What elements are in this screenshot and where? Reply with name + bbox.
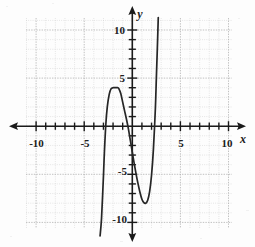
axis-y bbox=[128, 6, 136, 242]
y-tick-label-neg10: -10 bbox=[112, 213, 127, 225]
x-tick-label-5: 5 bbox=[178, 137, 184, 149]
x-axis-name: x bbox=[239, 132, 246, 146]
cartesian-plot: -10 -5 5 10 10 5 -5 -10 x y bbox=[0, 0, 255, 247]
y-axis-name: y bbox=[135, 7, 143, 21]
x-tick-label-neg10: -10 bbox=[29, 137, 44, 149]
y-tick-label-5: 5 bbox=[120, 72, 126, 84]
y-axis-tick-labels: 10 5 -5 -10 bbox=[112, 24, 127, 225]
y-tick-label-neg5: -5 bbox=[118, 165, 128, 177]
graph-figure: -10 -5 5 10 10 5 -5 -10 x y bbox=[0, 0, 255, 247]
x-tick-label-10: 10 bbox=[222, 137, 234, 149]
y-tick-label-10: 10 bbox=[114, 24, 126, 36]
x-tick-label-neg5: -5 bbox=[80, 137, 90, 149]
